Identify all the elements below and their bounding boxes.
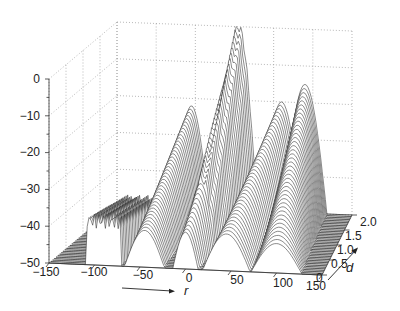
z-tick-label: −40 xyxy=(20,219,41,233)
d-axis-label: d xyxy=(346,260,354,275)
r-tick-label: −50 xyxy=(133,268,154,282)
z-axis-tick-labels: 0 −10 −20 −30 −40 −50 xyxy=(20,72,41,270)
r-axis-arrow xyxy=(122,288,175,294)
z-tick-label: −10 xyxy=(20,109,41,123)
z-tick-label: 0 xyxy=(33,72,40,86)
data-traces xyxy=(49,27,352,275)
r-tick-label: 100 xyxy=(273,276,293,290)
d-tick-label: 1.5 xyxy=(345,229,362,243)
d-tick-label: 2.0 xyxy=(360,215,377,229)
r-tick-label: 50 xyxy=(230,273,244,287)
z-tick-label: −30 xyxy=(20,182,41,196)
d-tick-label: 0 xyxy=(316,271,323,285)
r-tick-label: −150 xyxy=(32,265,59,279)
r-axis-label: r xyxy=(184,283,189,298)
waterfall-plot: 0 −10 −20 −30 −40 −50 −150 −100 −50 0 50… xyxy=(0,0,400,311)
r-tick-label: −100 xyxy=(80,265,107,279)
z-tick-label: −20 xyxy=(20,145,41,159)
